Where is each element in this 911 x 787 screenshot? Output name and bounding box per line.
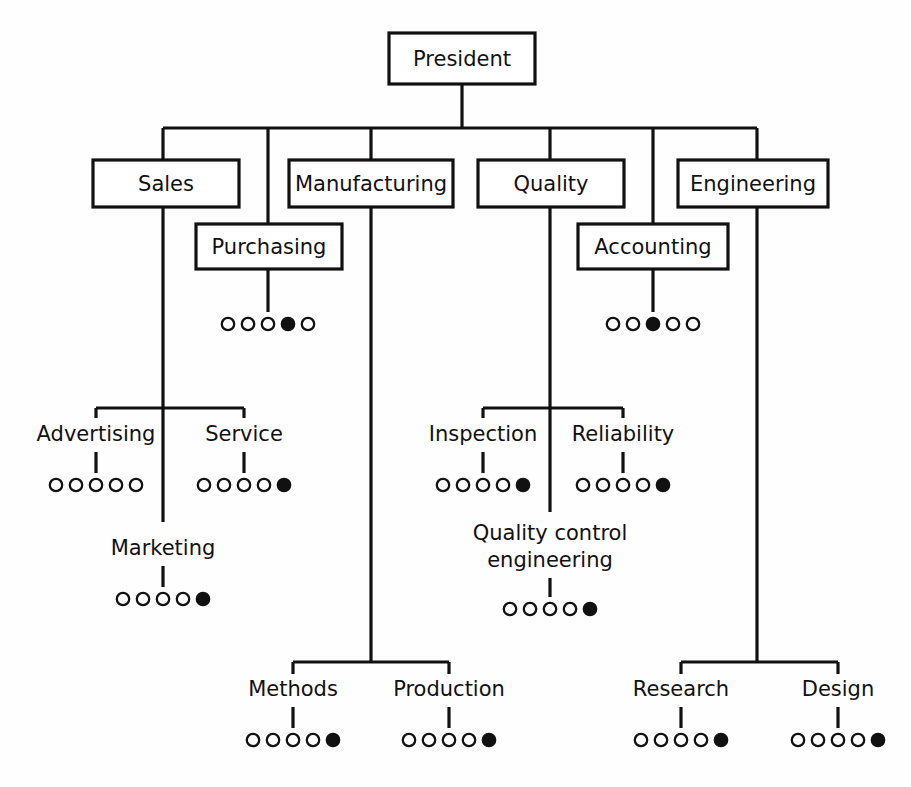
rating-dot-open[interactable] <box>457 479 469 491</box>
rating-dots-design[interactable] <box>792 734 884 746</box>
rating-dot-open[interactable] <box>695 734 707 746</box>
rating-dot-open[interactable] <box>577 479 589 491</box>
rating-dot-open[interactable] <box>262 318 274 330</box>
rating-dot-open[interactable] <box>247 734 259 746</box>
rating-dots-methods[interactable] <box>247 734 339 746</box>
node-marketing-label[interactable]: Marketing <box>111 536 216 560</box>
rating-dot-open[interactable] <box>477 479 489 491</box>
node-research-label[interactable]: Research <box>633 677 729 701</box>
rating-dot-open[interactable] <box>242 318 254 330</box>
node-accounting[interactable]: Accounting <box>578 224 728 269</box>
rating-dot-open[interactable] <box>812 734 824 746</box>
rating-dot-open[interactable] <box>267 734 279 746</box>
node-production-label[interactable]: Production <box>393 677 505 701</box>
org-chart-svg: President Sales Purchasing Manufacturing… <box>0 0 911 787</box>
node-purchasing[interactable]: Purchasing <box>196 224 342 269</box>
rating-dot-open[interactable] <box>504 603 516 615</box>
rating-dots-service[interactable] <box>198 479 290 491</box>
rating-dot-open[interactable] <box>463 734 475 746</box>
rating-dot-open[interactable] <box>443 734 455 746</box>
rating-dot-filled[interactable] <box>584 603 596 615</box>
rating-dot-filled[interactable] <box>483 734 495 746</box>
rating-dot-open[interactable] <box>302 318 314 330</box>
rating-dot-filled[interactable] <box>197 593 209 605</box>
rating-dot-open[interactable] <box>627 318 639 330</box>
rating-dot-filled[interactable] <box>282 318 294 330</box>
node-methods-label[interactable]: Methods <box>248 677 338 701</box>
node-quality-control-label-line1[interactable]: Quality control <box>473 521 628 545</box>
rating-dots-research[interactable] <box>635 734 727 746</box>
rating-dot-open[interactable] <box>403 734 415 746</box>
rating-dot-open[interactable] <box>177 593 189 605</box>
rating-dots-quality-control[interactable] <box>504 603 596 615</box>
rating-dots-reliability[interactable] <box>577 479 669 491</box>
rating-dot-open[interactable] <box>667 318 679 330</box>
node-reliability-label[interactable]: Reliability <box>572 422 675 446</box>
node-engineering-label: Engineering <box>690 172 816 196</box>
node-president-label: President <box>413 47 511 71</box>
rating-dot-open[interactable] <box>137 593 149 605</box>
node-sales-label: Sales <box>138 172 194 196</box>
node-manufacturing[interactable]: Manufacturing <box>289 160 453 207</box>
node-design-label[interactable]: Design <box>802 677 875 701</box>
rating-dot-open[interactable] <box>607 318 619 330</box>
rating-dot-filled[interactable] <box>278 479 290 491</box>
rating-dot-open[interactable] <box>130 479 142 491</box>
rating-dot-open[interactable] <box>792 734 804 746</box>
rating-dot-open[interactable] <box>437 479 449 491</box>
rating-dot-open[interactable] <box>544 603 556 615</box>
rating-dot-open[interactable] <box>423 734 435 746</box>
rating-dot-open[interactable] <box>597 479 609 491</box>
rating-dot-open[interactable] <box>307 734 319 746</box>
rating-dot-open[interactable] <box>687 318 699 330</box>
rating-dot-open[interactable] <box>90 479 102 491</box>
rating-dot-open[interactable] <box>637 479 649 491</box>
rating-dot-open[interactable] <box>117 593 129 605</box>
rating-dot-open[interactable] <box>497 479 509 491</box>
rating-dots-advertising[interactable] <box>50 479 142 491</box>
node-quality-label: Quality <box>513 172 588 196</box>
boxed-node-layer: President Sales Purchasing Manufacturing… <box>93 33 828 269</box>
node-quality[interactable]: Quality <box>478 160 624 207</box>
rating-dots-inspection[interactable] <box>437 479 529 491</box>
rating-dot-open[interactable] <box>287 734 299 746</box>
rating-dot-filled[interactable] <box>657 479 669 491</box>
rating-dot-open[interactable] <box>70 479 82 491</box>
node-advertising-label[interactable]: Advertising <box>37 422 156 446</box>
rating-dot-open[interactable] <box>110 479 122 491</box>
rating-dot-open[interactable] <box>564 603 576 615</box>
rating-dot-open[interactable] <box>655 734 667 746</box>
rating-dot-filled[interactable] <box>715 734 727 746</box>
rating-dot-open[interactable] <box>222 318 234 330</box>
rating-dot-filled[interactable] <box>647 318 659 330</box>
rating-dot-open[interactable] <box>157 593 169 605</box>
rating-dots-marketing[interactable] <box>117 593 209 605</box>
rating-dot-open[interactable] <box>832 734 844 746</box>
org-chart-canvas: President Sales Purchasing Manufacturing… <box>0 0 911 787</box>
node-quality-control-label-line2[interactable]: engineering <box>487 548 613 572</box>
rating-dot-open[interactable] <box>198 479 210 491</box>
node-purchasing-label: Purchasing <box>212 235 327 259</box>
node-manufacturing-label: Manufacturing <box>295 172 447 196</box>
rating-dot-filled[interactable] <box>872 734 884 746</box>
rating-dot-filled[interactable] <box>327 734 339 746</box>
node-service-label[interactable]: Service <box>205 422 283 446</box>
rating-dots-accounting-rating[interactable] <box>607 318 699 330</box>
rating-dot-open[interactable] <box>617 479 629 491</box>
rating-dot-open[interactable] <box>524 603 536 615</box>
rating-dots-purchasing-rating[interactable] <box>222 318 314 330</box>
rating-dot-open[interactable] <box>852 734 864 746</box>
rating-dot-open[interactable] <box>675 734 687 746</box>
rating-dot-filled[interactable] <box>517 479 529 491</box>
node-president[interactable]: President <box>389 33 535 84</box>
rating-dot-open[interactable] <box>50 479 62 491</box>
node-engineering[interactable]: Engineering <box>678 160 828 207</box>
rating-dot-open[interactable] <box>238 479 250 491</box>
rating-dot-open[interactable] <box>258 479 270 491</box>
node-inspection-label[interactable]: Inspection <box>429 422 537 446</box>
node-accounting-label: Accounting <box>594 235 711 259</box>
rating-dot-open[interactable] <box>218 479 230 491</box>
node-sales[interactable]: Sales <box>93 160 239 207</box>
rating-dots-production[interactable] <box>403 734 495 746</box>
rating-dot-open[interactable] <box>635 734 647 746</box>
